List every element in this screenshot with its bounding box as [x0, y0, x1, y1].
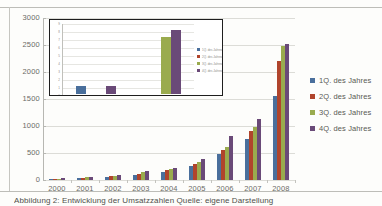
inset-bar	[76, 86, 86, 94]
legend-label: 1Q. des Jahres	[319, 76, 371, 85]
inset-y-tick-label: 5	[51, 55, 60, 58]
inset-bar	[171, 30, 181, 94]
inset-legend-item: 1Q. des Jahres	[197, 46, 222, 53]
bar	[173, 168, 177, 180]
bar	[117, 175, 121, 180]
inset-bar	[106, 86, 116, 94]
legend-label: 3Q. des Jahres	[319, 108, 371, 117]
y-tick-mark	[43, 72, 46, 73]
inset-legend-label: 2Q. des Jahres	[202, 55, 222, 59]
x-tick-label: 2005	[183, 184, 211, 193]
inset-legend-swatch-icon	[197, 55, 200, 58]
legend-item: 2Q. des Jahres	[310, 88, 371, 104]
inset-y-tick-label: 0	[51, 95, 60, 97]
legend-swatch-icon	[310, 110, 315, 115]
y-tick-mark	[43, 180, 46, 181]
x-tick-label: 2004	[155, 184, 183, 193]
inset-legend-swatch-icon	[197, 48, 200, 51]
inset-y-tick-label: 3	[51, 71, 60, 74]
inset-y-tick-label: 7	[51, 39, 60, 42]
bar	[89, 177, 93, 180]
y-tick-label: 2000	[10, 68, 40, 76]
inset-bar-group	[76, 22, 116, 94]
inset-legend-item: 3Q. des Jahres	[197, 60, 222, 67]
bar	[61, 178, 65, 180]
legend-item: 3Q. des Jahres	[310, 104, 371, 120]
bar	[145, 171, 149, 180]
legend-swatch-icon	[310, 78, 315, 83]
x-tick-label: 2001	[71, 184, 99, 193]
legend-swatch-icon	[310, 94, 315, 99]
inset-y-tick-label: 6	[51, 47, 60, 50]
legend-label: 2Q. des Jahres	[319, 92, 371, 101]
figure-caption: Abbildung 2: Entwicklung der Umsatzzahle…	[14, 195, 374, 206]
x-tick-mark	[295, 180, 296, 183]
bar	[229, 136, 233, 180]
inset-bar-group	[141, 22, 181, 94]
y-tick-label: 2500	[10, 41, 40, 49]
inset-legend-swatch-icon	[197, 69, 200, 72]
y-tick-mark	[43, 153, 46, 154]
y-tick-label: 1000	[10, 122, 40, 130]
x-tick-mark	[127, 180, 128, 183]
bar-group	[245, 18, 261, 180]
y-tick-label: 500	[10, 149, 40, 157]
inset-legend-label: 1Q. des Jahres	[202, 48, 222, 52]
x-tick-label: 2000	[43, 184, 71, 193]
x-tick-mark	[211, 180, 212, 183]
inset-bar-chart: 9876543210 1Q. des Jahres2Q. des Jahres3…	[49, 19, 223, 96]
main-chart-legend: 1Q. des Jahres2Q. des Jahres3Q. des Jahr…	[310, 72, 371, 136]
x-tick-label: 2006	[211, 184, 239, 193]
x-tick-mark	[239, 180, 240, 183]
y-tick-label: 0	[10, 176, 40, 184]
y-tick-label: 3000	[10, 14, 40, 22]
x-tick-mark	[99, 180, 100, 183]
x-tick-label: 2002	[99, 184, 127, 193]
bar	[257, 119, 261, 180]
inset-legend-item: 2Q. des Jahres	[197, 53, 222, 60]
y-tick-mark	[43, 18, 46, 19]
inset-legend-label: 4Q. des Jahres	[202, 69, 222, 73]
x-tick-mark	[71, 180, 72, 183]
inset-legend-label: 3Q. des Jahres	[202, 62, 222, 66]
y-tick-mark	[43, 45, 46, 46]
legend-item: 1Q. des Jahres	[310, 72, 371, 88]
scanned-page: 050010001500200025003000 200020012002200…	[0, 0, 382, 206]
legend-label: 4Q. des Jahres	[319, 124, 371, 133]
inset-y-tick-label: 2	[51, 79, 60, 82]
bar	[201, 159, 205, 180]
y-tick-label: 1500	[10, 95, 40, 103]
x-tick-label: 2003	[127, 184, 155, 193]
inset-legend-swatch-icon	[197, 62, 200, 65]
inset-chart-legend: 1Q. des Jahres2Q. des Jahres3Q. des Jahr…	[197, 46, 222, 74]
inset-y-tick-label: 4	[51, 63, 60, 66]
gridline	[43, 180, 295, 181]
inset-y-tick-label: 9	[51, 23, 60, 26]
y-tick-mark	[43, 99, 46, 100]
bar	[285, 44, 289, 180]
inset-bar	[161, 37, 171, 94]
legend-swatch-icon	[310, 126, 315, 131]
inset-y-tick-label: 8	[51, 31, 60, 34]
inset-legend-item: 4Q. des Jahres	[197, 67, 222, 74]
x-tick-mark	[267, 180, 268, 183]
bar-group	[273, 18, 289, 180]
x-tick-label: 2007	[239, 184, 267, 193]
x-tick-label: 2008	[267, 184, 295, 193]
legend-item: 4Q. des Jahres	[310, 120, 371, 136]
y-tick-mark	[43, 126, 46, 127]
figure-caption-text: Abbildung 2: Entwicklung der Umsatzzahle…	[14, 195, 374, 206]
x-tick-mark	[155, 180, 156, 183]
x-tick-mark	[183, 180, 184, 183]
inset-y-tick-label: 1	[51, 87, 60, 90]
